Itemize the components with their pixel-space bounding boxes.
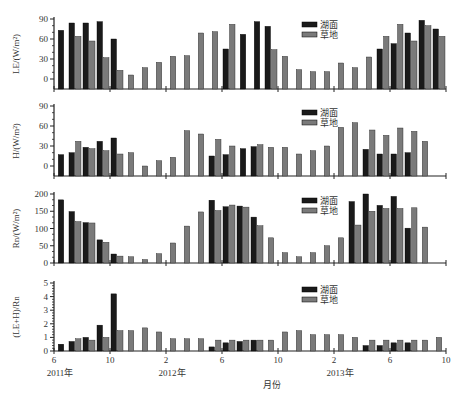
bar-grass: [142, 328, 148, 351]
bar-grass: [142, 166, 148, 176]
bar-lake: [69, 212, 75, 263]
bar-lake: [209, 200, 215, 263]
legend-label: 湖面: [320, 108, 338, 118]
bar-grass: [128, 153, 134, 176]
bar-grass: [128, 75, 134, 89]
bar-grass: [352, 123, 358, 176]
bar-lake: [83, 337, 89, 351]
bar-grass: [90, 41, 96, 89]
bar-grass: [436, 337, 442, 351]
y-tick-label: 3: [44, 305, 49, 315]
bar-grass: [198, 212, 204, 263]
bar-grass: [104, 58, 110, 89]
x-year-label: 2011年: [47, 367, 74, 378]
bar-grass: [272, 50, 278, 89]
bar-lake: [111, 254, 117, 263]
bar-grass: [384, 340, 390, 351]
bar-lake: [251, 217, 257, 263]
legend: 湖面草地: [302, 285, 338, 305]
bar-grass: [104, 151, 110, 176]
bar-grass: [296, 154, 302, 176]
y-tick-label: 90: [39, 101, 49, 111]
bar-grass: [370, 340, 376, 351]
bar-grass: [90, 149, 96, 176]
bar-grass: [230, 146, 236, 176]
bar-grass: [310, 335, 316, 351]
bar-grass: [282, 147, 288, 176]
bar-lake: [377, 346, 383, 351]
bar-grass: [422, 340, 428, 351]
y-tick-label: 150: [35, 206, 49, 216]
y-tick-label: 0: [44, 346, 49, 356]
bar-grass: [412, 208, 418, 263]
bar-grass: [184, 339, 190, 351]
x-axis-title: 月份: [263, 379, 281, 390]
bar-grass: [198, 33, 204, 89]
bar-grass: [230, 340, 236, 351]
bar-lake: [254, 22, 260, 89]
y-tick-label: 50: [39, 241, 49, 251]
bar-lake: [223, 207, 229, 263]
x-tick-label: 2: [164, 355, 169, 365]
bar-grass: [352, 68, 358, 89]
bar-grass: [128, 331, 134, 351]
bar-grass: [366, 57, 372, 89]
bar-grass: [338, 335, 344, 351]
panel-2: 0306090H/(W/m²)湖面草地: [11, 101, 446, 179]
bar-grass: [230, 24, 236, 89]
bar-grass: [398, 24, 404, 89]
y-axis-title: Rn/(W/m²): [11, 209, 21, 249]
bar-lake: [111, 39, 117, 89]
legend-label: 草地: [320, 294, 338, 305]
x-year-label: 2013年: [327, 367, 354, 378]
bar-grass: [422, 141, 428, 176]
bar-grass: [324, 72, 330, 89]
bar-grass: [296, 257, 302, 263]
bar-grass: [324, 246, 330, 263]
legend-swatch: [302, 32, 317, 37]
x-tick-label: 10: [106, 355, 116, 365]
bar-grass: [352, 337, 358, 351]
y-tick-label: 0: [44, 161, 49, 171]
bar-lake: [58, 30, 64, 89]
legend-label: 湖面: [320, 20, 338, 30]
bar-grass: [296, 331, 302, 351]
bar-lake: [237, 206, 243, 263]
bar-grass: [156, 161, 162, 176]
legend-swatch: [302, 120, 317, 125]
bar-grass: [212, 32, 218, 89]
bar-lake: [391, 44, 397, 89]
bar-grass: [198, 339, 204, 351]
x-tick-label: 10: [442, 355, 452, 365]
bar-grass: [156, 62, 162, 89]
legend: 湖面草地: [302, 20, 338, 40]
bar-lake: [209, 347, 215, 351]
legend-label: 湖面: [320, 196, 338, 206]
bar-grass: [324, 146, 330, 176]
bar-grass: [310, 151, 316, 176]
x-tick-label: 10: [274, 355, 284, 365]
panel-4: 012345(LE+H)/Rn湖面草地: [11, 278, 446, 356]
bar-lake: [419, 20, 425, 89]
y-axis-title: H/(W/m²): [11, 123, 21, 159]
bar-lake: [83, 147, 89, 176]
y-tick-label: 0: [44, 74, 49, 84]
bar-grass: [244, 340, 250, 351]
bar-grass: [128, 257, 134, 263]
legend-swatch: [302, 287, 317, 292]
bar-lake: [223, 155, 229, 176]
bar-grass: [90, 340, 96, 351]
bar-lake: [223, 49, 229, 89]
bar-lake: [265, 26, 271, 89]
bar-grass: [282, 332, 288, 351]
legend-label: 草地: [320, 117, 338, 128]
bar-grass: [104, 242, 110, 263]
bar-lake: [405, 228, 411, 263]
bar-lake: [223, 343, 229, 351]
bar-lake: [111, 294, 117, 351]
bar-grass: [268, 340, 274, 351]
bar-grass: [118, 331, 124, 351]
bar-grass: [156, 332, 162, 351]
bar-grass: [384, 135, 390, 176]
bar-grass: [258, 145, 264, 176]
